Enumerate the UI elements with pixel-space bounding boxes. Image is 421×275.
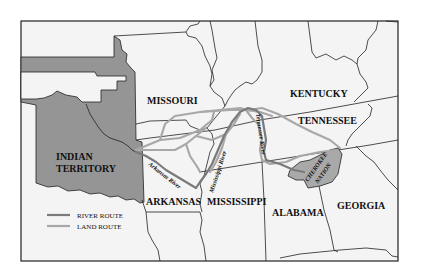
label-mississippi: MISSISSIPPI [207, 196, 267, 207]
trail-of-tears-map: MISSOURI KENTUCKY TENNESSEE INDIAN TERRI… [0, 0, 421, 275]
label-indian-territory-1: INDIAN [56, 151, 93, 162]
label-georgia: GEORGIA [337, 200, 386, 211]
indian-territory-region [21, 36, 144, 203]
label-tennessee: TENNESSEE [298, 115, 357, 126]
label-indian-territory-2: TERRITORY [56, 163, 117, 174]
legend-river-route-label: RIVER ROUTE [77, 212, 123, 220]
label-arkansas: ARKANSAS [146, 196, 201, 207]
label-missouri: MISSOURI [147, 95, 198, 106]
label-alabama: ALABAMA [272, 207, 324, 218]
label-kentucky: KENTUCKY [290, 88, 349, 99]
legend-land-route-label: LAND ROUTE [77, 223, 122, 231]
